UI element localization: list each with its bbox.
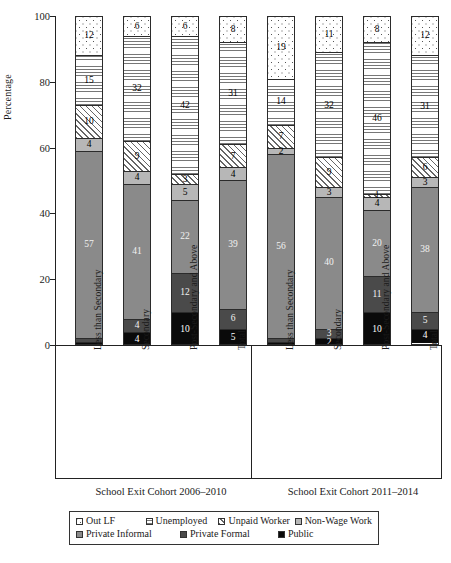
bar-segment-private-informal: 38 xyxy=(412,188,438,313)
bar-segment-value: 11 xyxy=(324,30,333,40)
bar-segment-value: 31 xyxy=(228,89,238,99)
bar-segment-unpaid-worker: 9 xyxy=(316,158,342,188)
bar-segment-value: 10 xyxy=(180,325,190,335)
category-label: Secondary xyxy=(333,309,343,350)
bar-segment-value: 7 xyxy=(279,132,284,142)
bar-segment-out-lf: 8 xyxy=(220,17,246,43)
y-tick-label: 60 xyxy=(24,142,50,153)
stacked-bar[interactable]: 1231633854 xyxy=(411,16,439,345)
legend-item-non-wage-work[interactable]: Non-Wage Work xyxy=(295,516,372,526)
bar-segment-non-wage-work: 4 xyxy=(124,172,150,185)
bar-segment-value: 6 xyxy=(423,163,428,173)
bar-segment-non-wage-work: 4 xyxy=(364,198,390,211)
legend-swatch-out-lf-icon xyxy=(76,518,83,525)
bar-segment-value: 56 xyxy=(276,242,286,252)
stacked-bar[interactable]: 1132934032 xyxy=(315,16,343,345)
bar-segment-value: 14 xyxy=(276,97,286,107)
bar-segment-value: 42 xyxy=(180,101,190,111)
bar-segment-value: 46 xyxy=(372,114,382,124)
bar-segment-non-wage-work: 5 xyxy=(172,185,198,201)
bar-segment-value: 57 xyxy=(84,240,94,250)
y-tick-mark xyxy=(50,213,55,214)
bar-segment-non-wage-work: 2 xyxy=(268,149,294,156)
bar-segment-non-wage-work: 4 xyxy=(220,168,246,181)
y-tick-label: 100 xyxy=(24,11,50,22)
bar-segment-out-lf: 6 xyxy=(124,17,150,37)
bar-segment-unpaid-worker: 3 xyxy=(172,175,198,185)
category-label: Total xyxy=(237,330,247,350)
panel-separator xyxy=(251,345,252,478)
chart-root: Percentage 100806040200 1215104576329441… xyxy=(0,0,451,563)
legend-label: Out LF xyxy=(86,516,115,526)
bar-segment-unemployed: 31 xyxy=(412,56,438,158)
bar-segment-value: 10 xyxy=(84,117,94,127)
legend-swatch-private-informal-icon xyxy=(76,531,83,538)
bar-segment-unemployed: 15 xyxy=(76,56,102,105)
legend-item-private-formal[interactable]: Private Formal xyxy=(180,529,278,539)
bar-segment-unemployed: 14 xyxy=(268,80,294,126)
y-tick-label: 20 xyxy=(24,274,50,285)
y-tick-mark xyxy=(50,279,55,280)
legend-label: Private Formal xyxy=(190,529,250,539)
legend-item-out-lf[interactable]: Out LF xyxy=(76,516,146,526)
bar-segment-private-formal: 5 xyxy=(412,313,438,329)
bar-segment-value: 38 xyxy=(420,245,430,255)
panel-right-edge xyxy=(441,345,442,478)
bar-segment-private-informal: 41 xyxy=(124,185,150,320)
legend-swatch-non-wage-work-icon xyxy=(295,518,302,525)
bar-segment-unpaid-worker: 10 xyxy=(76,106,102,139)
bar-segment-value: 4 xyxy=(231,170,236,180)
legend-item-unpaid-worker[interactable]: Unpaid Worker xyxy=(218,516,294,526)
legend-row-1: Out LFUnemployedUnpaid WorkerNon-Wage Wo… xyxy=(76,516,372,526)
bar-segment-unemployed: 31 xyxy=(220,43,246,145)
bar-segment-value: 2 xyxy=(279,147,284,157)
legend-item-unemployed[interactable]: Unemployed xyxy=(146,516,219,526)
bar-segment-value: 4 xyxy=(423,331,428,341)
bar-segment-value: 4 xyxy=(87,140,92,150)
bar-segment-value: 39 xyxy=(228,240,238,250)
y-tick-mark xyxy=(50,16,55,17)
legend-label: Unpaid Worker xyxy=(228,516,290,526)
bar-segment-value: 3 xyxy=(183,175,188,185)
panel-left-edge xyxy=(55,345,56,478)
category-label: Less than Secondary xyxy=(93,269,103,350)
legend-item-public[interactable]: Public xyxy=(278,529,314,539)
bar-segment-value: 12 xyxy=(84,31,94,41)
panel-bottom-line xyxy=(55,478,442,479)
bar-segment-value: 20 xyxy=(372,239,382,249)
bar-segment-value: 32 xyxy=(132,84,142,94)
bar-segment-value: 5 xyxy=(231,333,236,343)
bar-segment-value: 32 xyxy=(324,101,334,111)
y-tick-mark xyxy=(50,82,55,83)
legend-swatch-unpaid-worker-icon xyxy=(218,518,225,525)
bar-segment-value: 8 xyxy=(375,25,380,35)
bar-segment-value: 11 xyxy=(372,290,381,300)
bar-segment-value: 9 xyxy=(135,152,140,162)
legend-swatch-public-icon xyxy=(278,531,285,538)
stacked-bar[interactable]: 632944144 xyxy=(123,16,151,345)
bar-segment-value: 22 xyxy=(180,232,190,242)
bar-segment-out-lf: 6 xyxy=(172,17,198,37)
bar-segment-value: 3 xyxy=(327,188,332,198)
bar-segment-value: 6 xyxy=(231,314,236,324)
legend-label: Public xyxy=(288,529,314,539)
bar-segment-value: 4 xyxy=(135,173,140,183)
bar-segment-value: 9 xyxy=(327,168,332,178)
bar-segment-value: 40 xyxy=(324,258,334,268)
bar-segment-value: 5 xyxy=(423,316,428,326)
bar-segment-non-wage-work: 3 xyxy=(316,188,342,198)
bar-segment-out-lf: 8 xyxy=(364,17,390,43)
bar-segment-value: 12 xyxy=(420,31,430,41)
legend-item-private-informal[interactable]: Private Informal xyxy=(76,529,180,539)
bar-segment-private-informal: 39 xyxy=(220,181,246,309)
bar-segment-unemployed: 32 xyxy=(316,53,342,158)
bar-segment-unemployed: 32 xyxy=(124,37,150,142)
legend-label: Unemployed xyxy=(156,516,208,526)
y-tick-mark xyxy=(50,148,55,149)
bar-segment-non-wage-work: 4 xyxy=(76,139,102,152)
stacked-bar[interactable]: 831743965 xyxy=(219,16,247,345)
legend-row-2: Private InformalPrivate FormalPublic xyxy=(76,529,372,539)
bar-segment-value: 19 xyxy=(276,43,286,53)
y-tick-label: 40 xyxy=(24,208,50,219)
bar-segment-value: 6 xyxy=(135,22,140,32)
